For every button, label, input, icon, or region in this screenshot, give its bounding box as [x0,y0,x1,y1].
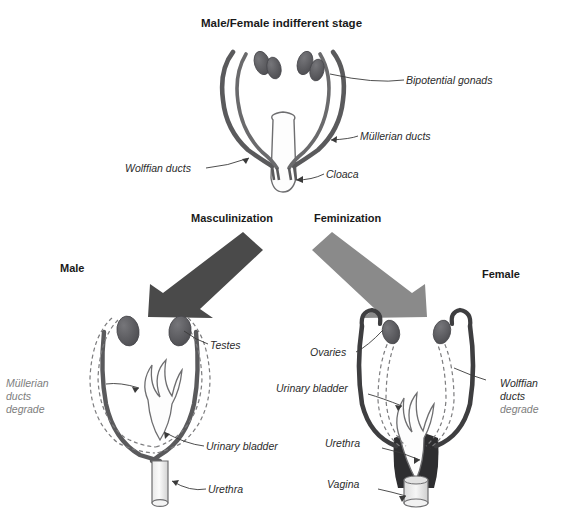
leader-female-bladder [368,394,402,406]
sexual-differentiation-diagram: Male/Female indifferent stage Bipotentia… [0,0,571,519]
heading-masculinization: Masculinization [191,212,273,224]
label-wolffian-degrade-line2: ducts [500,390,525,402]
male-urethra-opening [152,500,168,507]
male-bladder [145,360,182,440]
label-female-urethra: Urethra [325,437,360,450]
arrowhead-male-bladder [164,432,170,439]
label-wolffian-degrade-line1: Wolffian [500,377,538,389]
feminization-arrow [312,232,427,318]
female-vaginal-opening [404,499,428,507]
label-female-urinary-bladder: Urinary bladder [276,382,348,395]
male-urethra-tube [152,461,168,506]
label-mullerian-degrade-line2: ducts [6,390,31,402]
female-wolffian-degrading-right [430,338,454,448]
label-male-urethra: Urethra [208,483,243,496]
label-mullerian-ducts: Müllerian ducts [360,130,431,143]
masculinization-arrow [148,232,263,318]
female-oviduct-right [452,310,471,326]
male-anatomy [90,315,210,507]
label-wolffian-degrade-line3: degrade [500,403,539,415]
label-vagina: Vagina [327,478,359,491]
label-cloaca: Cloaca [326,168,359,181]
indifferent-stage-anatomy [206,49,404,192]
heading-male: Male [60,262,84,274]
label-male-urinary-bladder: Urinary bladder [206,440,278,453]
label-bipotential-gonads: Bipotential gonads [406,74,492,87]
leader-wolffian-degrade [454,368,486,380]
label-mullerian-degrade-line1: Müllerian [6,377,49,389]
arrowhead-male-urethra [172,480,179,486]
testis-left [115,315,141,348]
label-ovaries: Ovaries [310,346,346,359]
female-vaginal-canal-top [404,476,428,484]
arrowhead-wolffian-ducts [242,158,249,164]
female-mullerian-duct-left [359,326,396,446]
arrowhead-mullerian-degrade [132,387,139,393]
arrowhead-cloaca [296,176,303,183]
heading-female: Female [482,268,520,280]
cloaca-body [271,112,296,192]
female-wolffian-degrading-right-inner [426,340,446,446]
ovary-left [380,318,402,345]
heading-feminization: Feminization [314,212,381,224]
diagram-title: Male/Female indifferent stage [201,17,362,29]
label-wolffian-ducts: Wolffian ducts [125,162,191,175]
leader-vagina [378,489,406,496]
label-testes: Testes [210,339,241,352]
label-mullerian-degrade-line3: degrade [6,403,45,415]
female-anatomy [356,310,486,507]
